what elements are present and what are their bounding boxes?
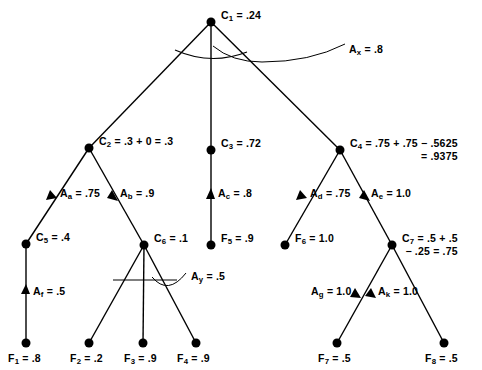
sub-Ak: k	[386, 290, 391, 299]
sub-Ay: y	[199, 275, 204, 284]
sub-F1: 1	[15, 357, 20, 366]
sub-F5: 5	[228, 237, 233, 246]
label-F3: F3 = .9	[124, 352, 157, 365]
sub-C1: 1	[229, 14, 234, 23]
val-F6: = 1.0	[306, 232, 334, 244]
sub-C2: 2	[107, 140, 112, 149]
val-F7: = .5	[329, 352, 351, 364]
label-Ab: Ab = .9	[120, 187, 155, 200]
node-F6[interactable]	[281, 241, 290, 250]
label-F7: F7 = .5	[318, 352, 351, 365]
diagram-canvas: C1 = .24 C2 = .3 + 0 = .3 C3 = .72 C4 = …	[0, 0, 482, 370]
label-C6: C6 = .1	[154, 232, 188, 245]
sub-Af: f	[41, 290, 44, 299]
label-C7: C7 = .5 + .5− .25 = .75	[402, 232, 458, 258]
node-F8[interactable]	[440, 339, 449, 348]
edge-C6-F4	[144, 245, 196, 343]
sub-F3: 3	[131, 357, 136, 366]
edge-C1-C4	[211, 22, 340, 150]
arrow-Ac	[206, 188, 215, 199]
node-F3[interactable]	[139, 339, 148, 348]
leader-lines	[152, 44, 345, 286]
arrow-Ad	[296, 190, 307, 200]
node-F5[interactable]	[207, 241, 216, 250]
val-F8: = .5	[436, 352, 458, 364]
val-Ab: = .9	[133, 187, 155, 199]
arrow-Ae	[359, 190, 370, 201]
val-Ax: = .8	[361, 43, 383, 55]
val-C7-line2: − .25 = .75	[402, 245, 458, 258]
node-F7[interactable]	[333, 339, 342, 348]
val-Ag: = 1.0	[324, 285, 352, 297]
leader-Ay	[152, 273, 186, 286]
val-Aa: = .75	[72, 187, 100, 199]
node-C2[interactable]	[85, 144, 94, 153]
sub-C5: 5	[44, 236, 49, 245]
sub-F2: 2	[77, 357, 82, 366]
sub-Ac: c	[226, 192, 231, 201]
val-C5: = .4	[48, 231, 70, 243]
label-F4: F4 = .9	[177, 352, 210, 365]
sub-Ag: g	[319, 290, 324, 299]
leader-Ax	[213, 44, 345, 62]
node-F2[interactable]	[85, 339, 94, 348]
val-C7: = .5 + .5	[414, 232, 457, 244]
node-C1[interactable]	[207, 18, 216, 27]
sub-Ad: d	[318, 192, 323, 201]
val-Ad: = .75	[323, 187, 351, 199]
label-F2: F2 = .2	[70, 352, 103, 365]
label-F8: F8 = .5	[425, 352, 458, 365]
val-F4: = .9	[188, 352, 210, 364]
val-Ay: = .5	[203, 270, 225, 282]
val-C4-line2: = .9375	[350, 150, 458, 163]
label-F6: F6 = 1.0	[295, 232, 334, 245]
arrow-Af	[21, 284, 30, 294]
sub-Ae: e	[379, 192, 384, 201]
and-arcs	[113, 50, 247, 280]
label-C4: C4 = .75 + .75 − .5625= .9375	[350, 137, 458, 163]
arrow-Ag	[350, 288, 361, 298]
sub-F8: 8	[432, 357, 437, 366]
sub-Aa: a	[68, 192, 73, 201]
label-Ag: Ag = 1.0	[311, 285, 352, 298]
sub-C7: 7	[410, 237, 415, 246]
label-C5: C5 = .4	[36, 231, 70, 244]
sub-Ax: x	[357, 48, 362, 57]
sub-F7: 7	[325, 357, 330, 366]
label-C2: C2 = .3 + 0 = .3	[99, 135, 173, 148]
val-C6: = .1	[166, 232, 188, 244]
sub-F6: 6	[302, 237, 307, 246]
label-Ad: Ad = .75	[310, 187, 351, 200]
val-C1: = .24	[233, 9, 261, 21]
label-C3: C3 = .72	[221, 137, 261, 150]
val-C4: = .75 + .75 − .5625	[362, 137, 457, 149]
label-Ay: Ay = .5	[191, 270, 225, 283]
node-F4[interactable]	[192, 339, 201, 348]
label-Ae: Ae = 1.0	[371, 187, 411, 200]
val-F5: = .9	[232, 232, 254, 244]
node-F1[interactable]	[22, 339, 31, 348]
val-F1: = .8	[19, 352, 41, 364]
val-Ak: = 1.0	[390, 285, 418, 297]
node-C4[interactable]	[336, 146, 345, 155]
sub-F4: 4	[184, 357, 189, 366]
label-Ax: Ax = .8	[349, 43, 383, 56]
edge-C6-F2	[89, 245, 144, 343]
label-C1: C1 = .24	[221, 9, 261, 22]
node-C5[interactable]	[22, 240, 31, 249]
node-C3[interactable]	[207, 146, 216, 155]
label-F5: F5 = .9	[221, 232, 254, 245]
sub-C4: 4	[358, 142, 363, 151]
val-Ac: = .8	[230, 187, 252, 199]
label-Ak: Ak = 1.0	[378, 285, 418, 298]
node-C7[interactable]	[388, 241, 397, 250]
val-Ae: = 1.0	[383, 187, 411, 199]
label-Aa: Aa = .75	[60, 187, 100, 200]
sub-C3: 3	[229, 142, 234, 151]
edge-layer	[0, 0, 482, 370]
node-C6[interactable]	[140, 241, 149, 250]
label-Ac: Ac = .8	[218, 187, 252, 200]
label-Af: Af = .5	[33, 285, 65, 298]
val-Af: = .5	[44, 285, 66, 297]
val-C2: = .3 + 0 = .3	[111, 135, 173, 147]
